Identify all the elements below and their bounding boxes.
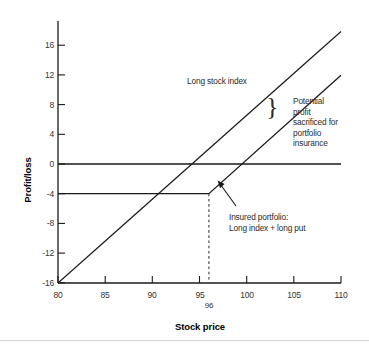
ytick-label-neg16: -16 xyxy=(42,278,54,288)
annotation-long-stock-index: Long stock index xyxy=(187,76,247,87)
brace-symbol: } xyxy=(266,94,278,120)
ytick-label-4: 4 xyxy=(49,129,54,139)
strike-price-label: 96 xyxy=(205,301,214,310)
ytick-label-neg12: -12 xyxy=(42,248,54,258)
series-long-stock-index xyxy=(58,32,341,284)
xtick-label-95: 95 xyxy=(195,290,204,300)
x-tick-marks xyxy=(58,276,341,283)
xtick-label-85: 85 xyxy=(100,290,109,300)
bottom-divider xyxy=(0,340,369,341)
ytick-label-16: 16 xyxy=(45,40,54,50)
ytick-label-0: 0 xyxy=(49,159,54,169)
x-axis-title: Stock price xyxy=(175,321,225,332)
y-axis-title: Profit/loss xyxy=(22,157,33,202)
ytick-label-neg4: -4 xyxy=(47,189,54,199)
xtick-label-105: 105 xyxy=(287,290,301,300)
ytick-label-8: 8 xyxy=(49,100,54,110)
xtick-label-110: 110 xyxy=(335,290,348,300)
ytick-label-neg8: -8 xyxy=(47,218,54,228)
xtick-label-100: 100 xyxy=(240,290,254,300)
annotation-potential-profit-sacrificed: Potential profit sacrificed for portfoli… xyxy=(293,96,338,149)
annotation-insured-portfolio: Insured portfolio: Long index + long put xyxy=(229,212,305,233)
xtick-label-90: 90 xyxy=(147,290,156,300)
insured-portfolio-arrow xyxy=(218,181,236,206)
chart-figure: 16 12 8 4 0 -4 -8 -12 -16 80 85 90 95 10… xyxy=(0,0,369,346)
xtick-label-80: 80 xyxy=(53,290,62,300)
ytick-label-12: 12 xyxy=(45,70,54,80)
